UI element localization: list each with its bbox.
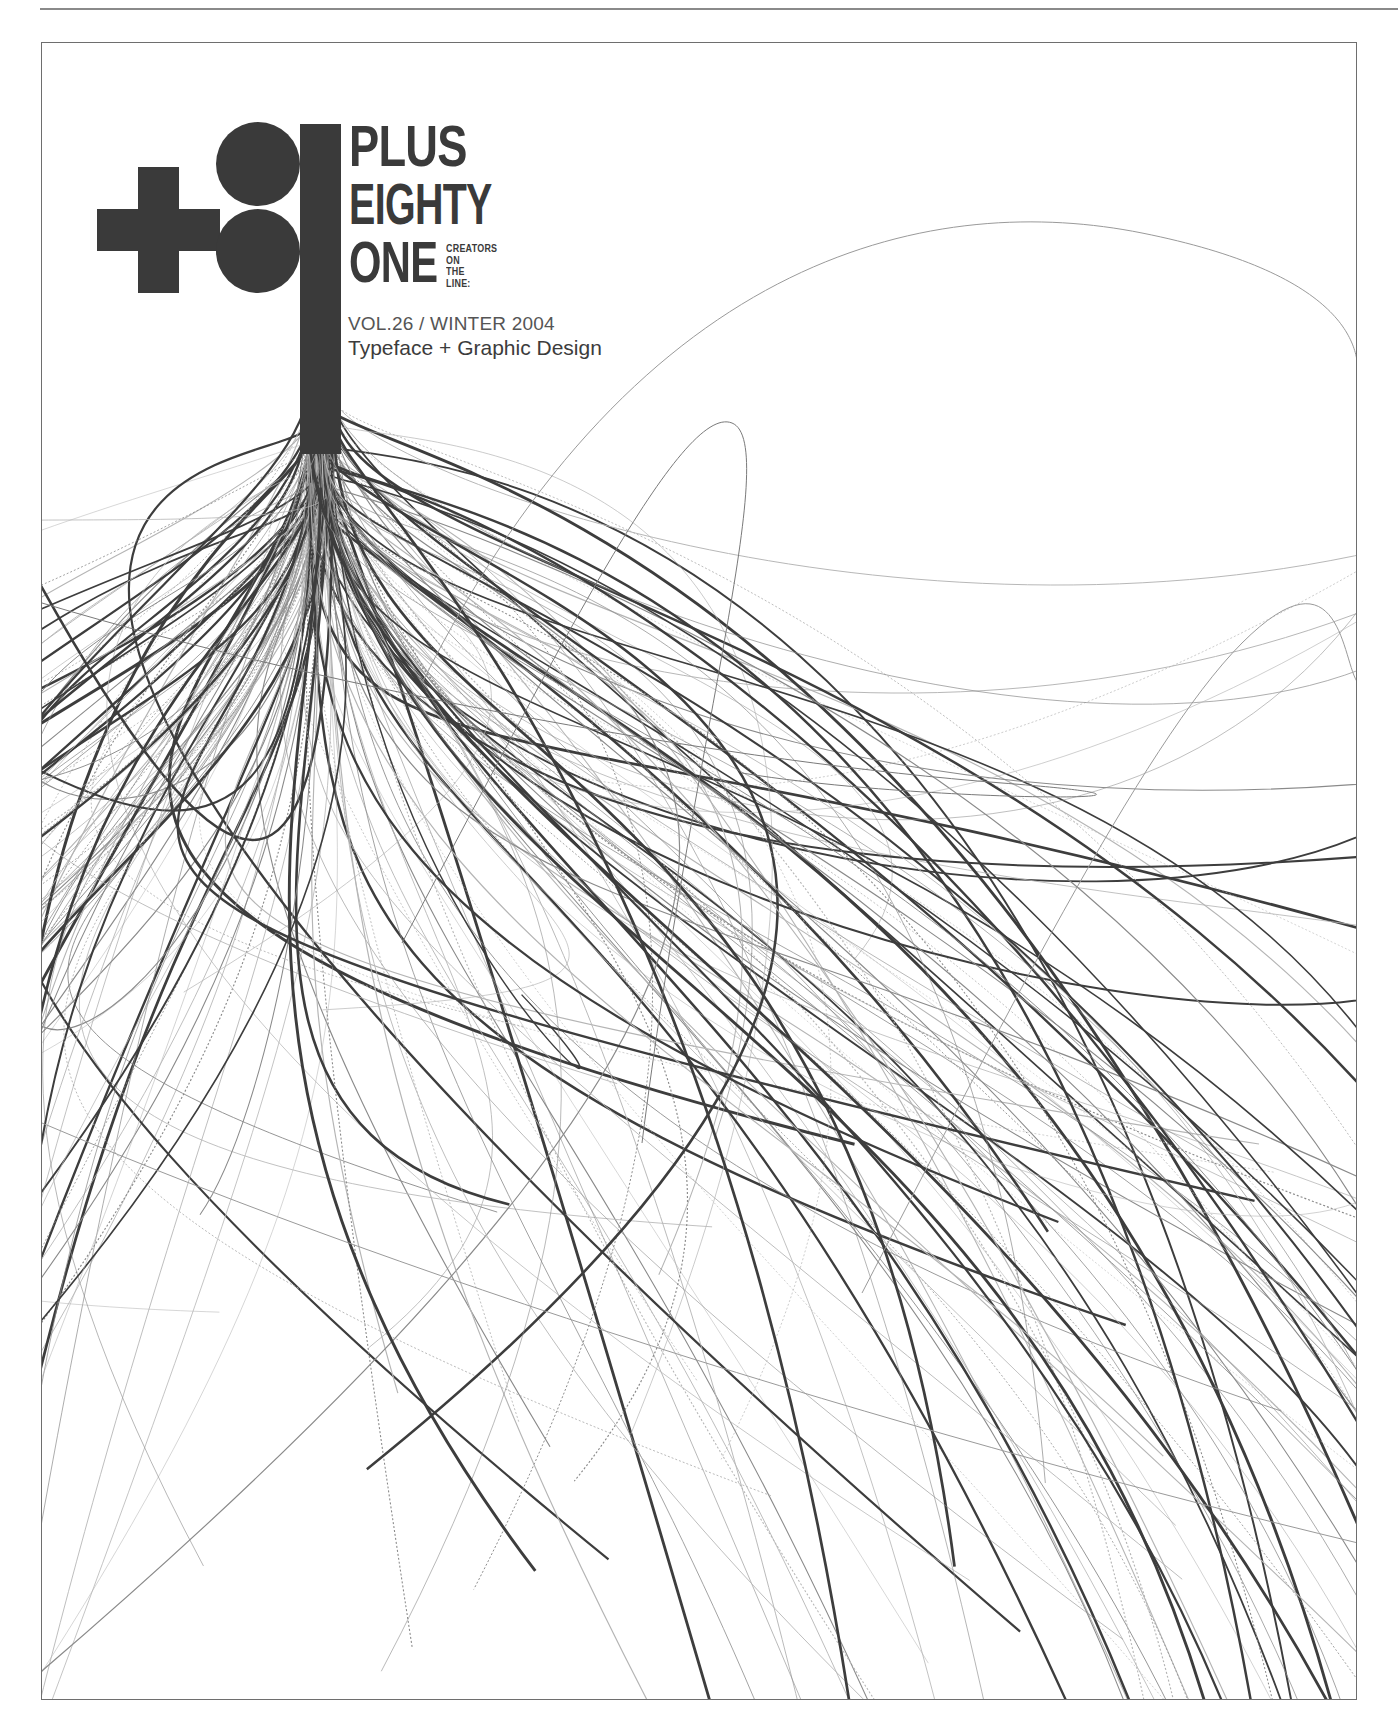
tagline-line: LINE: bbox=[446, 278, 497, 290]
page-top-rule bbox=[40, 8, 1398, 10]
masthead-one: ONE bbox=[349, 233, 437, 291]
plus-vertical-bar bbox=[138, 167, 179, 293]
one-stem-bar bbox=[300, 124, 341, 454]
issue-title: Typeface + Graphic Design bbox=[348, 336, 602, 360]
magazine-cover: PLUS EIGHTY ONE CREATORS ON THE LINE: VO… bbox=[41, 42, 1357, 1700]
masthead-plus: PLUS bbox=[349, 117, 467, 175]
eight-upper-circle bbox=[216, 122, 300, 206]
eight-lower-circle bbox=[216, 209, 300, 293]
line-bundle-artwork bbox=[42, 43, 1357, 1700]
volume-issue-date: VOL.26 / WINTER 2004 bbox=[348, 313, 555, 335]
masthead-tagline: CREATORS ON THE LINE: bbox=[446, 243, 497, 289]
masthead-eighty: EIGHTY bbox=[349, 175, 492, 233]
tagline-line: THE bbox=[446, 266, 497, 278]
tagline-line: CREATORS bbox=[446, 243, 497, 255]
logo-plus-eighty-one-icon bbox=[97, 122, 341, 454]
